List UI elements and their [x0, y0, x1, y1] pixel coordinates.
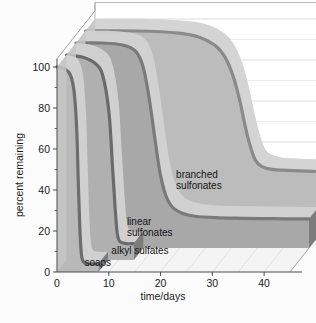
x-tick-label: 40 — [258, 277, 270, 289]
x-axis-title: time/days — [141, 290, 186, 302]
x-tick-label: 10 — [103, 277, 115, 289]
x-tick-label: 30 — [206, 277, 218, 289]
chart-container: 020406080100 010203040 branchedsulfonate… — [0, 0, 316, 323]
x-tick-label: 20 — [155, 277, 167, 289]
x-tick-label: 0 — [54, 277, 60, 289]
annotation-soaps: soaps — [84, 257, 111, 268]
annotation-alkyl-sulfates: alkyl sulfates — [111, 245, 168, 256]
y-axis-title: percent remaining — [13, 133, 25, 217]
y-tick-label: 80 — [38, 102, 50, 114]
y-tick-label: 20 — [38, 225, 50, 237]
y-tick-label: 100 — [32, 61, 50, 73]
y-tick-label: 40 — [38, 184, 50, 196]
y-tick-label: 60 — [38, 143, 50, 155]
annotation-branched-sulfonates: branchedsulfonates — [176, 169, 222, 191]
y-tick-label: 0 — [44, 266, 50, 278]
degradation-area-chart: 020406080100 010203040 branchedsulfonate… — [0, 0, 316, 323]
